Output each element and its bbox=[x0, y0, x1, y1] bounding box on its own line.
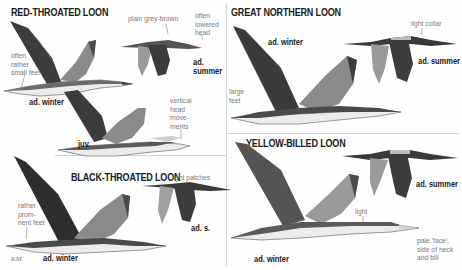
label-ad-winter: ad. winter bbox=[268, 38, 303, 47]
leader-line bbox=[362, 216, 366, 224]
label-ad-summer: ad. summer bbox=[416, 180, 458, 189]
leader-line bbox=[165, 24, 169, 36]
note-often-lowered-head: often lowered head bbox=[195, 12, 219, 38]
label-ad-summer: ad. summer bbox=[418, 57, 460, 66]
artist-signature: KM bbox=[11, 255, 22, 263]
leader-line bbox=[421, 28, 425, 36]
label-juv: juv. bbox=[78, 140, 90, 149]
label-ad-winter: ad. winter bbox=[254, 255, 289, 264]
red-throated-ad-summer-illustration bbox=[118, 36, 204, 80]
species-title-red-throated: RED-THROATED LOON bbox=[11, 6, 108, 18]
note-large-feet: large feet bbox=[229, 88, 244, 105]
note-light-patches: light patches bbox=[172, 174, 210, 183]
black-throated-ad-summer-illustration bbox=[140, 180, 234, 230]
species-title-great-northern: GREAT NORTHERN LOON bbox=[231, 6, 341, 18]
loon-identification-plate: RED-THROATED LOON often rather small fee… bbox=[0, 0, 462, 270]
label-ad-s: ad. s. bbox=[191, 224, 210, 233]
label-ad-summer: ad. summer bbox=[193, 58, 222, 76]
note-pale-face-side-of-neck-and-bill: pale 'face', side of neck and bill bbox=[417, 237, 453, 263]
leader-line bbox=[20, 74, 26, 90]
label-ad-summer-text: ad. summer bbox=[193, 57, 222, 76]
label-ad-winter: ad. winter bbox=[43, 254, 78, 263]
note-plain-grey-brown: plain grey-brown bbox=[128, 15, 178, 24]
note-rather-prominent-feet: rather prom- nent feet bbox=[18, 202, 44, 228]
leader-line bbox=[200, 34, 204, 42]
right-horizontal-divider bbox=[227, 133, 459, 134]
yellow-billed-ad-summer-illustration bbox=[340, 148, 462, 200]
note-vertical-head-movements: vertical head move- ments bbox=[170, 97, 192, 131]
leader-line bbox=[25, 227, 29, 241]
leader-line bbox=[180, 129, 184, 141]
note-light-collar: light collar bbox=[411, 20, 442, 29]
